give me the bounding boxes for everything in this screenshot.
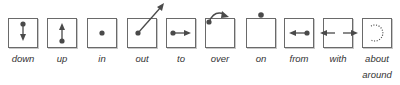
item-to: to <box>161 0 201 85</box>
item-up: up <box>42 0 82 85</box>
label-about-line2: around <box>362 69 392 80</box>
item-from: from <box>279 0 319 85</box>
item-in: in <box>82 0 122 85</box>
item-down: down <box>3 0 43 85</box>
item-out: out <box>122 0 162 85</box>
dotted-circle-icon <box>357 0 397 50</box>
arrow-right-icon <box>161 0 201 50</box>
arrows-together-icon <box>318 0 358 50</box>
arrow-left-icon <box>279 0 319 50</box>
item-on: on <box>241 0 281 85</box>
label-about-line1: about <box>365 53 389 64</box>
item-over: over <box>200 0 240 85</box>
arrow-down-icon <box>3 0 43 50</box>
item-about-around: about around <box>357 0 397 85</box>
arc-over-icon <box>200 0 240 50</box>
dot-inside-icon <box>82 0 122 50</box>
arrow-out-icon <box>122 0 162 50</box>
label-about: about around <box>351 54 400 74</box>
arrow-up-icon <box>42 0 82 50</box>
dot-on-top-icon <box>241 0 281 50</box>
